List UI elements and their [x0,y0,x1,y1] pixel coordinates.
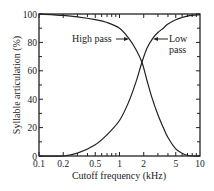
y-tick-label: 40 [28,95,38,105]
y-tick-label: 20 [28,123,38,133]
x-axis-title: Cutoff frequency (kHz) [72,170,166,182]
low-pass-label-line2: pass [169,44,186,55]
x-tick-label: 0.5 [89,159,101,169]
x-tick-label: 0.1 [33,159,45,169]
y-axis-tick-labels: 020406080100 [23,10,38,162]
low-pass-label-line1: Low [169,33,188,44]
x-tick-label: 1 [117,159,122,169]
x-tick-label: 0.2 [57,159,69,169]
chart: 020406080100 0.10.20.512510 High pass Lo… [0,0,214,191]
x-tick-label: 10 [195,159,205,169]
y-axis-title: Syllable articulation (%) [11,36,23,134]
y-tick-label: 60 [28,66,38,76]
high-pass-label: High pass [72,33,112,44]
x-axis-tick-labels: 0.10.20.512510 [33,159,205,169]
x-tick-label: 5 [173,159,178,169]
y-tick-label: 80 [28,38,38,48]
x-tick-label: 2 [141,159,146,169]
y-tick-label: 100 [23,10,38,20]
